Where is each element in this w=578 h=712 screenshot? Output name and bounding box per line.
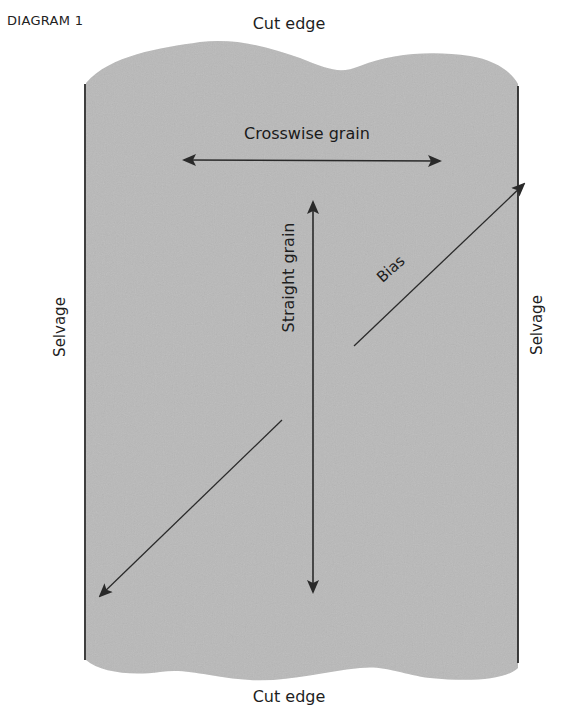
crosswise-grain-arrow xyxy=(184,160,440,161)
selvage-right-label: Selvage xyxy=(528,295,546,355)
cut-edge-bottom-label: Cut edge xyxy=(0,687,578,706)
straight-grain-label: Straight grain xyxy=(279,222,298,332)
fabric-diagram xyxy=(0,0,578,712)
crosswise-grain-label: Crosswise grain xyxy=(244,124,370,143)
selvage-left-label: Selvage xyxy=(51,297,69,357)
